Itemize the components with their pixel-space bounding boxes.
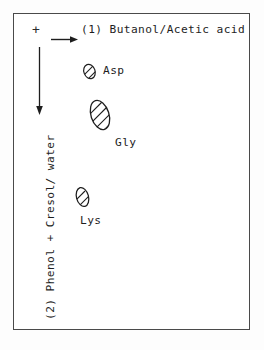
dimension-two-down-arrow-icon [33, 47, 46, 115]
spot-asp [82, 63, 97, 84]
dimension-one-right-arrow-icon [51, 29, 78, 38]
origin-plus-icon: + [30, 23, 42, 37]
dimension-one-label: (1) Butanol/Acetic acid [81, 23, 245, 37]
chromatogram-figure: + (1) Butanol/Acetic acid (2) Phenol + C… [0, 0, 264, 350]
dimension-two-label: (2) Phenol + Cresol/ water [44, 134, 58, 320]
spot-label-asp: Asp [103, 64, 124, 78]
spot-label-gly: Gly [115, 136, 136, 150]
spot-gly [88, 98, 113, 137]
spot-lys [74, 186, 91, 213]
spot-label-lys: Lys [80, 214, 101, 228]
